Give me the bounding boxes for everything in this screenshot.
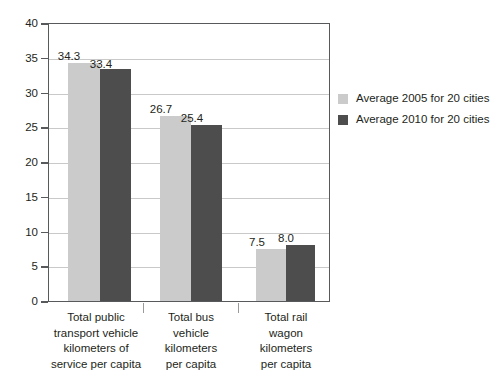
category-label-2: Total bus vehicle kilometers per capita: [144, 310, 238, 372]
y-tick-label-40: 40: [4, 17, 38, 29]
legend-swatch-icon-2005: [338, 94, 348, 104]
legend-item-2005: Average 2005 for 20 cities: [338, 88, 489, 109]
bar-value-2010-group3: 8.0: [268, 232, 304, 244]
y-tick-label-15: 15: [4, 191, 38, 203]
bar-value-2010-group2: 25.4: [174, 112, 210, 124]
legend-label-2005: Average 2005 for 20 cities: [356, 92, 489, 105]
y-tick-mark-25: [41, 127, 48, 129]
y-tick-mark-5: [41, 266, 48, 268]
legend-swatch-icon-2010: [338, 115, 348, 125]
y-tick-mark-10: [41, 232, 48, 234]
y-tick-label-10: 10: [4, 226, 38, 238]
y-tick-label-5: 5: [4, 260, 38, 272]
legend-item-2010: Average 2010 for 20 cities: [338, 109, 489, 130]
bar-value-2005-group1: 34.3: [51, 50, 87, 62]
category-label-1: Total public transport vehicle kilometer…: [49, 310, 143, 372]
legend: Average 2005 for 20 cities Average 2010 …: [338, 88, 489, 130]
y-tick-label-20: 20: [4, 156, 38, 168]
y-tick-label-25: 25: [4, 121, 38, 133]
legend-label-2010: Average 2010 for 20 cities: [356, 113, 489, 126]
y-tick-mark-15: [41, 197, 48, 199]
y-tick-label-30: 30: [4, 87, 38, 99]
category-label-3: Total rail wagon kilometers per capita: [239, 310, 333, 372]
bar-value-2010-group1: 33.4: [83, 58, 119, 70]
y-tick-mark-40: [41, 23, 48, 25]
y-tick-mark-35: [41, 58, 48, 60]
y-tick-label-0: 0: [4, 295, 38, 307]
bar-chart: 40 35 30 25 20 15 10 5 0 34.3 33.4 26.7 …: [0, 0, 500, 388]
y-tick-mark-30: [41, 93, 48, 95]
y-tick-mark-0: [41, 301, 48, 303]
y-tick-mark-20: [41, 162, 48, 164]
y-tick-label-35: 35: [4, 52, 38, 64]
